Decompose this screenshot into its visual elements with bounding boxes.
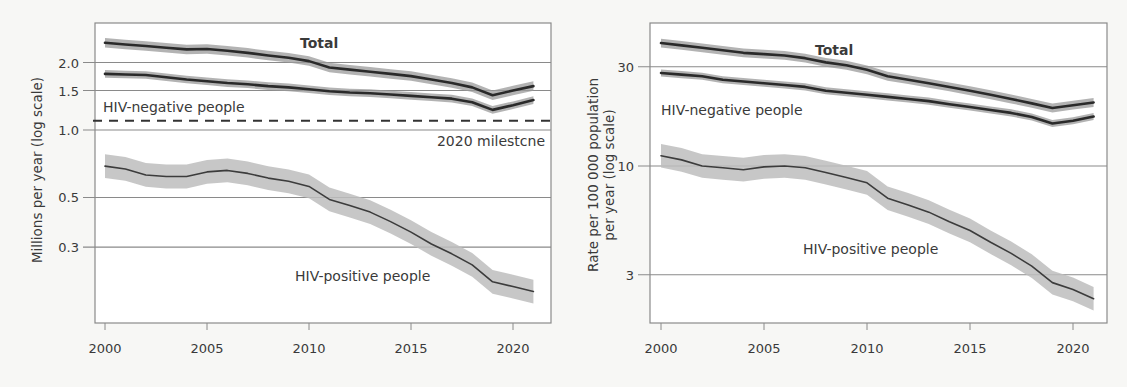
y-tick-label: 10 (617, 159, 634, 174)
x-tick-label: 2015 (953, 341, 986, 356)
y-tick-label: 30 (617, 60, 634, 75)
right-label-total: Total (815, 42, 853, 58)
right-chart-rate: 31030 20002005201020152020 Rate per 100 … (0, 0, 1127, 387)
x-tick-label: 2020 (1056, 341, 1089, 356)
right-x-axis-ticks: 20002005201020152020 (644, 323, 1089, 356)
y-tick-label: 3 (626, 268, 634, 283)
x-tick-label: 2000 (644, 341, 677, 356)
right-chart-svg: 31030 20002005201020152020 Rate per 100 … (0, 0, 1127, 387)
right-label-hiv-negative: HIV-negative people (661, 102, 803, 118)
x-tick-label: 2005 (747, 341, 780, 356)
right-y-axis-ticks: 31030 (617, 60, 634, 283)
right-label-hiv-positive: HIV-positive people (803, 241, 938, 257)
right-y-axis-label-line2: per year (log scale) (601, 109, 617, 240)
right-y-axis-label-line1: Rate per 100 000 population (585, 78, 601, 272)
x-tick-label: 2010 (850, 341, 883, 356)
